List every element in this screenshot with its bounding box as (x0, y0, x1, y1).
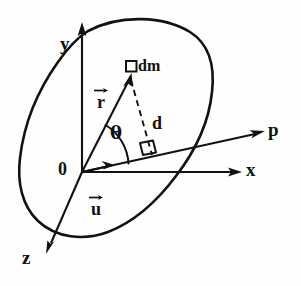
dm-marker-icon (126, 61, 137, 72)
physics-diagram: y x z p 0 dm d θ r u (0, 0, 301, 286)
vector-r-label: r (93, 93, 109, 111)
dm-square (126, 61, 137, 72)
distance-d-label: d (152, 114, 162, 132)
axis-label-p: p (268, 120, 279, 139)
axis-z-line (51, 172, 82, 243)
vector-r-label-group: r (93, 86, 109, 111)
axis-label-z: z (22, 248, 30, 267)
vector-u-label: u (88, 200, 104, 218)
axis-x (82, 167, 242, 176)
vector-r-arrow-accent-icon (93, 86, 109, 93)
dm-label: dm (138, 58, 160, 74)
diagram-canvas (0, 0, 301, 286)
axis-label-x: x (246, 160, 256, 179)
vector-u-label-group: u (88, 193, 104, 218)
distance-d-dashed-line (131, 80, 152, 155)
axis-label-y: y (60, 34, 70, 53)
distance-d (131, 80, 152, 155)
axis-z (46, 172, 82, 254)
axis-y (78, 22, 87, 172)
vector-u-arrow-accent-icon (88, 193, 104, 200)
origin-label: 0 (58, 160, 67, 178)
angle-theta-label: θ (110, 124, 122, 142)
